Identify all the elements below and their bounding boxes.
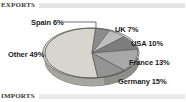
pie-label-uk: UK 7% <box>115 25 138 34</box>
pie-label-germany: Germany 15% <box>118 77 167 86</box>
pie-label-other: Other 49% <box>8 50 44 59</box>
pie-label-spain: Spain 6% <box>31 18 64 27</box>
section-header-exports: EXPORTS <box>0 0 186 10</box>
section-label-imports: IMPORTS <box>0 92 35 100</box>
pie-label-france: France 13% <box>129 58 170 67</box>
section-label-exports: EXPORTS <box>0 1 35 9</box>
section-divider-bar-top <box>39 3 185 8</box>
pie-label-usa: USA 10% <box>131 39 163 48</box>
section-divider-bar-bottom <box>39 94 185 99</box>
pie-chart-area: Spain 6% UK 7% USA 10% France 13% German… <box>0 10 186 91</box>
exports-pie-chart-panel: EXPORTS <box>0 0 186 102</box>
section-header-imports: IMPORTS <box>0 91 186 101</box>
